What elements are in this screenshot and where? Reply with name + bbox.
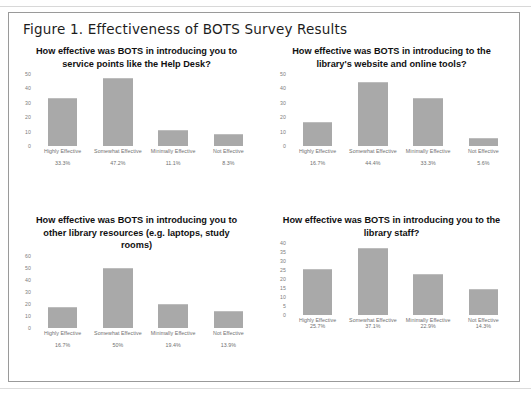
bar bbox=[413, 98, 442, 146]
x-axis-value-label: 25.7% bbox=[292, 323, 343, 329]
bar bbox=[48, 307, 77, 327]
y-axis: 50403020100 bbox=[270, 74, 288, 146]
x-axis-value-label: 50% bbox=[92, 342, 143, 348]
y-axis-tick-label: 40 bbox=[25, 85, 31, 91]
y-axis-tick-label: 20 bbox=[25, 301, 31, 307]
chart-title: How effective was BOTS in introducing yo… bbox=[9, 43, 264, 70]
charts-grid: How effective was BOTS in introducing yo… bbox=[9, 43, 519, 381]
x-axis-value-label: 5.6% bbox=[458, 160, 509, 166]
y-axis-tick-label: 50 bbox=[25, 71, 31, 77]
x-axis-value-labels: 16.7%50%19.4%13.9% bbox=[35, 342, 256, 348]
chart-panel-service-points: How effective was BOTS in introducing yo… bbox=[9, 43, 264, 212]
chart-title: How effective was BOTS in introducing yo… bbox=[264, 212, 519, 239]
x-axis-category-label: Highly Effective bbox=[292, 148, 343, 154]
bar bbox=[413, 274, 442, 315]
bar-slot bbox=[37, 74, 88, 146]
bar-slot bbox=[458, 243, 509, 315]
scan-artifact-bottom bbox=[0, 388, 531, 389]
x-axis-category-label: Highly Effective bbox=[37, 148, 88, 154]
x-axis-value-label: 33.3% bbox=[37, 160, 88, 166]
y-axis-tick-label: 40 bbox=[25, 277, 31, 283]
bar bbox=[303, 122, 332, 146]
bar-series bbox=[35, 74, 256, 146]
plot-area: 4035302520151050 Highly EffectiveSomewha… bbox=[270, 243, 513, 327]
x-axis-value-label: 16.7% bbox=[292, 160, 343, 166]
y-axis-tick-label: 40 bbox=[280, 85, 286, 91]
figure-caption: Figure 1. Effectiveness of BOTS Survey R… bbox=[23, 21, 347, 37]
bar-slot bbox=[37, 256, 88, 328]
y-axis: 4035302520151050 bbox=[270, 243, 288, 315]
bar bbox=[158, 130, 187, 146]
bar bbox=[214, 311, 243, 328]
y-axis-tick-label: 35 bbox=[280, 249, 286, 255]
x-axis-value-labels: 16.7%44.4%33.3%5.6% bbox=[290, 160, 511, 166]
plot-area: 6050403020100 Highly EffectiveSomewhat E… bbox=[15, 256, 258, 340]
x-axis-value-label: 37.1% bbox=[347, 323, 398, 329]
bar-slot bbox=[347, 74, 398, 146]
y-axis-tick-label: 10 bbox=[280, 129, 286, 135]
bar bbox=[158, 304, 187, 327]
x-axis-category-label: Somewhat Effective bbox=[92, 148, 143, 154]
bar bbox=[103, 268, 132, 328]
x-axis-value-label: 22.9% bbox=[403, 323, 454, 329]
x-axis-value-label: 19.4% bbox=[148, 342, 199, 348]
figure-frame: Figure 1. Effectiveness of BOTS Survey R… bbox=[8, 12, 520, 382]
y-axis: 6050403020100 bbox=[15, 256, 33, 328]
bar bbox=[303, 269, 332, 315]
x-axis-category-labels: Highly EffectiveSomewhat EffectiveMinima… bbox=[35, 148, 256, 154]
scan-artifact-top bbox=[0, 6, 531, 7]
x-axis-category-label: Minimally Effective bbox=[148, 330, 199, 336]
chart-panel-library-staff: How effective was BOTS in introducing yo… bbox=[264, 212, 519, 381]
y-axis-tick-label: 0 bbox=[28, 325, 31, 331]
bar bbox=[358, 248, 387, 315]
y-axis-tick-label: 10 bbox=[25, 129, 31, 135]
chart-panel-library-resources: How effective was BOTS in introducing yo… bbox=[9, 212, 264, 381]
bar-series bbox=[290, 243, 511, 315]
plot-area: 50403020100 Highly EffectiveSomewhat Eff… bbox=[270, 74, 513, 158]
bar-slot bbox=[203, 256, 254, 328]
x-axis-value-label: 8.3% bbox=[203, 160, 254, 166]
bar-slot bbox=[203, 74, 254, 146]
bar bbox=[469, 289, 498, 315]
y-axis-tick-label: 20 bbox=[25, 114, 31, 120]
bar-slot bbox=[347, 243, 398, 315]
x-axis-category-label: Not Effective bbox=[458, 148, 509, 154]
bar-slot bbox=[148, 256, 199, 328]
plot-area: 50403020100 Highly EffectiveSomewhat Eff… bbox=[15, 74, 258, 158]
bar-series bbox=[35, 256, 256, 328]
y-axis-tick-label: 20 bbox=[280, 276, 286, 282]
y-axis-tick-label: 30 bbox=[25, 100, 31, 106]
bar bbox=[358, 82, 387, 146]
y-axis-tick-label: 0 bbox=[283, 143, 286, 149]
bar bbox=[48, 98, 77, 146]
bar-slot bbox=[92, 74, 143, 146]
chart-panel-website-online-tools: How effective was BOTS in introducing to… bbox=[264, 43, 519, 212]
x-axis-value-label: 13.9% bbox=[203, 342, 254, 348]
y-axis-tick-label: 0 bbox=[28, 143, 31, 149]
x-axis-category-label: Somewhat Effective bbox=[92, 330, 143, 336]
y-axis-tick-label: 20 bbox=[280, 114, 286, 120]
y-axis-tick-label: 30 bbox=[280, 258, 286, 264]
bar-slot bbox=[403, 243, 454, 315]
bar-slot bbox=[403, 74, 454, 146]
chart-title: How effective was BOTS in introducing to… bbox=[264, 43, 519, 70]
x-axis-category-label: Highly Effective bbox=[37, 330, 88, 336]
y-axis-tick-label: 10 bbox=[25, 313, 31, 319]
y-axis-tick-label: 10 bbox=[280, 294, 286, 300]
bar-slot bbox=[148, 74, 199, 146]
bar-series bbox=[290, 74, 511, 146]
bar bbox=[469, 138, 498, 146]
x-axis-value-labels: 33.3%47.2%11.1%8.3% bbox=[35, 160, 256, 166]
x-axis-value-label: 44.4% bbox=[347, 160, 398, 166]
bar bbox=[103, 78, 132, 146]
bar bbox=[214, 134, 243, 146]
x-axis-value-label: 16.7% bbox=[37, 342, 88, 348]
x-axis-category-label: Somewhat Effective bbox=[347, 148, 398, 154]
x-axis-category-labels: Highly EffectiveSomewhat EffectiveMinima… bbox=[290, 148, 511, 154]
y-axis-tick-label: 40 bbox=[280, 240, 286, 246]
y-axis-tick-label: 5 bbox=[283, 303, 286, 309]
bar-slot bbox=[458, 74, 509, 146]
x-axis-value-labels: 25.7%37.1%22.9%14.3% bbox=[290, 323, 511, 329]
x-axis-category-label: Minimally Effective bbox=[403, 148, 454, 154]
x-axis-value-label: 47.2% bbox=[92, 160, 143, 166]
